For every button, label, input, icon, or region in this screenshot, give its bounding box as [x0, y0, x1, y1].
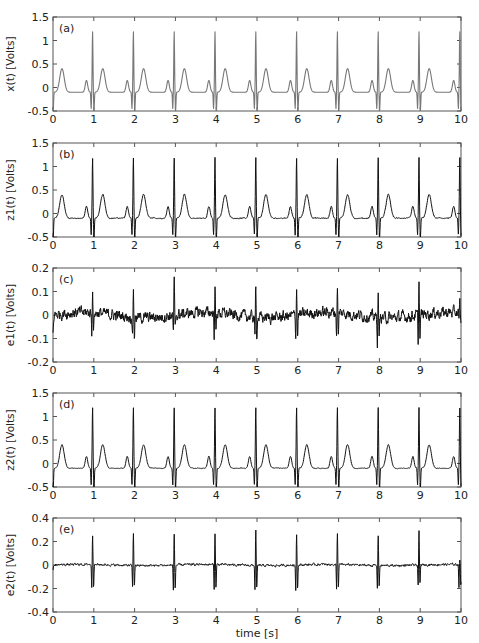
- panel-e: 012345678910-0.4-0.200.20.4(e)e2(t) [Vol…: [4, 512, 468, 627]
- x-tick-label: 7: [335, 113, 342, 126]
- signal-z1-line: [53, 157, 461, 237]
- x-tick-label: 10: [454, 239, 468, 252]
- x-tick-label: 0: [50, 239, 57, 252]
- x-tick-label: 3: [172, 113, 179, 126]
- x-tick-label: 4: [213, 614, 220, 627]
- x-tick-label: 9: [417, 113, 424, 126]
- x-tick-label: 7: [335, 239, 342, 252]
- x-tick-label: 5: [254, 614, 261, 627]
- y-tick-label: 1: [42, 35, 49, 48]
- x-tick-label: 10: [454, 614, 468, 627]
- x-tick-label: 0: [50, 364, 57, 377]
- y-axis-label: x(t) [Volts]: [4, 36, 16, 91]
- x-tick-label: 9: [417, 364, 424, 377]
- x-tick-label: 6: [294, 239, 301, 252]
- y-tick-label: 0.5: [32, 58, 50, 71]
- signal-z2-line: [53, 407, 461, 487]
- panel-b: 012345678910-0.500.511.5(b)z1(t) [Volts]: [4, 137, 468, 252]
- x-tick-label: 6: [294, 113, 301, 126]
- x-tick-label: 4: [213, 364, 220, 377]
- x-tick-label: 1: [90, 113, 97, 126]
- y-tick-label: -0.2: [28, 356, 49, 369]
- panel-a: 012345678910-0.500.511.5(a)x(t) [Volts]: [4, 11, 468, 126]
- signal-e1-line: [53, 277, 461, 348]
- x-tick-label: 0: [50, 489, 57, 502]
- x-tick-label: 5: [254, 239, 261, 252]
- y-tick-label: 0: [42, 309, 49, 322]
- y-tick-label: 0.5: [32, 434, 50, 447]
- x-tick-label: 8: [376, 364, 383, 377]
- y-tick-label: -0.5: [28, 481, 49, 494]
- signal-x-line: [53, 32, 461, 111]
- y-axis-label: z1(t) [Volts]: [4, 159, 16, 220]
- y-tick-label: 1: [42, 161, 49, 174]
- ecg-figure: 012345678910-0.500.511.5(a)x(t) [Volts]0…: [0, 0, 479, 643]
- x-tick-label: 9: [417, 489, 424, 502]
- x-tick-label: 4: [213, 239, 220, 252]
- y-tick-label: 0: [42, 208, 49, 221]
- panel-c: 012345678910-0.2-0.100.10.2(c)e1(t) [Vol…: [4, 262, 468, 377]
- x-tick-label: 10: [454, 364, 468, 377]
- x-tick-label: 4: [213, 113, 220, 126]
- x-tick-label: 1: [90, 364, 97, 377]
- x-tick-label: 1: [90, 614, 97, 627]
- y-tick-label: 0.4: [32, 512, 50, 525]
- y-tick-label: -0.1: [28, 333, 49, 346]
- x-tick-label: 5: [254, 364, 261, 377]
- panel-tag: (d): [59, 398, 75, 411]
- y-tick-label: 0: [42, 559, 49, 572]
- x-tick-label: 7: [335, 364, 342, 377]
- x-tick-label: 3: [172, 364, 179, 377]
- x-tick-label: 8: [376, 489, 383, 502]
- y-tick-label: 0: [42, 82, 49, 95]
- x-tick-label: 2: [131, 364, 138, 377]
- y-tick-label: 0: [42, 458, 49, 471]
- x-tick-label: 5: [254, 489, 261, 502]
- y-axis-label: z2(t) [Volts]: [4, 409, 16, 470]
- panel-tag: (b): [59, 148, 75, 161]
- x-tick-label: 8: [376, 239, 383, 252]
- y-tick-label: 0.2: [32, 536, 50, 549]
- x-axis-label: time [s]: [236, 627, 279, 640]
- x-tick-label: 4: [213, 489, 220, 502]
- y-tick-label: -0.2: [28, 583, 49, 596]
- x-tick-label: 8: [376, 113, 383, 126]
- x-tick-label: 1: [90, 489, 97, 502]
- x-tick-label: 10: [454, 489, 468, 502]
- panels-group: 012345678910-0.500.511.5(a)x(t) [Volts]0…: [4, 11, 468, 627]
- x-tick-label: 6: [294, 614, 301, 627]
- x-tick-label: 6: [294, 364, 301, 377]
- y-tick-label: 1.5: [32, 11, 50, 24]
- x-tick-label: 9: [417, 614, 424, 627]
- y-tick-label: 0.1: [32, 286, 50, 299]
- x-tick-label: 0: [50, 113, 57, 126]
- x-tick-label: 7: [335, 489, 342, 502]
- x-tick-label: 5: [254, 113, 261, 126]
- x-tick-label: 1: [90, 239, 97, 252]
- y-tick-label: 1.5: [32, 137, 50, 150]
- x-tick-label: 0: [50, 614, 57, 627]
- signal-e2-line: [53, 530, 461, 591]
- x-tick-label: 8: [376, 614, 383, 627]
- y-tick-label: -0.5: [28, 105, 49, 118]
- x-tick-label: 3: [172, 239, 179, 252]
- x-tick-label: 2: [131, 239, 138, 252]
- y-axis-label: e2(t) [Volts]: [4, 534, 16, 596]
- x-tick-label: 9: [417, 239, 424, 252]
- y-tick-label: 1: [42, 411, 49, 424]
- x-tick-label: 2: [131, 614, 138, 627]
- x-tick-label: 2: [131, 489, 138, 502]
- x-tick-label: 3: [172, 489, 179, 502]
- panel-d: 012345678910-0.500.511.5(d)z2(t) [Volts]: [4, 387, 468, 502]
- y-tick-label: 0.2: [32, 262, 50, 275]
- x-tick-label: 7: [335, 614, 342, 627]
- panel-tag: (e): [59, 523, 74, 536]
- y-tick-label: -0.4: [28, 606, 49, 619]
- y-tick-label: -0.5: [28, 231, 49, 244]
- y-axis-label: e1(t) [Volts]: [4, 284, 16, 346]
- y-tick-label: 0.5: [32, 184, 50, 197]
- x-tick-label: 6: [294, 489, 301, 502]
- panel-tag: (a): [59, 22, 74, 35]
- x-tick-label: 3: [172, 614, 179, 627]
- x-tick-label: 10: [454, 113, 468, 126]
